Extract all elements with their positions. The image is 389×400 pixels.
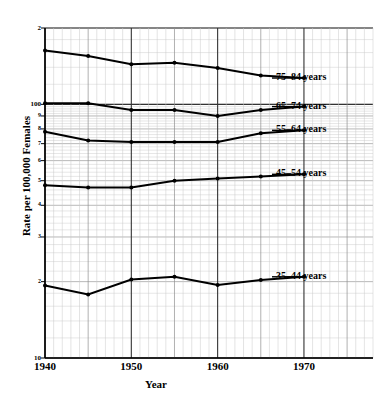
x-tick-1970: 1970 [284,360,324,372]
data-point [43,130,47,134]
data-point [259,131,263,135]
y-tick-50: 5 [19,177,41,183]
y-tick-70: 7 [19,140,41,146]
y-tick-80: 8 [19,125,41,131]
y-tick-60: 6 [19,157,41,163]
x-tick-1960: 1960 [198,360,238,372]
y-tick-10: 10 [19,354,41,362]
y-tick-20: 2 [19,278,41,284]
data-point [216,283,220,287]
data-point [172,61,176,65]
y-tick-90: 9 [19,112,41,118]
series-label-55-64 years: 55–64 years [276,123,326,134]
data-point [172,179,176,183]
data-point [43,49,47,53]
data-point [259,278,263,282]
series-label-35-44 years: 35–44 years [276,270,326,281]
data-point [86,139,90,143]
data-point [172,108,176,112]
data-point [86,54,90,58]
y-tick-100: 100 [19,100,41,108]
data-point [172,140,176,144]
chart-plot [0,0,389,400]
x-tick-1950: 1950 [111,360,151,372]
data-point [129,62,133,66]
data-point [259,174,263,178]
y-tick-30: 3 [19,233,41,239]
series-label-75-84 years: 75–84 years [276,71,326,82]
series-label-45-54 years: 45–54 years [276,167,326,178]
data-point [216,66,220,70]
data-point [129,140,133,144]
series-label-65-74 years: 65–74 years [276,100,326,111]
data-point [129,186,133,190]
data-point [86,292,90,296]
data-point [216,140,220,144]
data-point [172,275,176,279]
y-tick-40: 4 [19,201,41,207]
data-point [43,284,47,288]
data-point [216,114,220,118]
data-point [86,186,90,190]
data-point [129,277,133,281]
data-point [259,73,263,77]
chart-container: Rate per 100,000 Females Year 1940195019… [0,0,389,400]
data-point [216,177,220,181]
y-tick-200: 2 [19,24,41,32]
data-point [86,101,90,105]
data-point [129,108,133,112]
data-point [43,183,47,187]
x-axis-title: Year [45,378,267,390]
data-point [259,108,263,112]
